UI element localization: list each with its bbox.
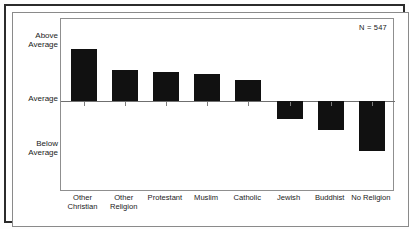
bar-catholic xyxy=(235,80,261,101)
plot-area: N = 547 xyxy=(60,18,394,191)
x-axis-label-no-religion: No Religion xyxy=(345,193,397,202)
y-axis-labels: Above Average Average Below Average xyxy=(8,0,58,229)
sample-size-annotation: N = 547 xyxy=(359,23,387,32)
x-tick-1 xyxy=(84,102,85,106)
bars-layer xyxy=(61,19,395,192)
y-tick-label-below-average-line1: Below xyxy=(36,139,58,148)
x-tick-2 xyxy=(125,102,126,106)
bar-no-religion xyxy=(359,101,385,151)
y-tick-label-below-average-line2: Average xyxy=(28,148,58,157)
y-tick-label-above-average: Above Average xyxy=(28,31,58,50)
x-axis-labels: OtherChristianOtherReligionProtestantMus… xyxy=(60,193,394,221)
y-tick-label-below-average: Below Average xyxy=(28,139,58,158)
x-tick-4 xyxy=(207,102,208,106)
x-tick-3 xyxy=(166,102,167,106)
x-tick-8 xyxy=(372,102,373,106)
x-axis-label-line: Religion xyxy=(98,202,150,211)
chart-figure: Above Average Average Below Average N = … xyxy=(0,0,409,229)
x-axis-label-line: No Religion xyxy=(345,193,397,202)
bar-other-christian xyxy=(71,49,97,101)
y-tick-label-average: Average xyxy=(28,94,58,104)
x-tick-5 xyxy=(248,102,249,106)
bar-protestant xyxy=(153,72,179,101)
y-tick-label-above-average-line1: Above xyxy=(35,31,58,40)
y-tick-label-above-average-line2: Average xyxy=(28,40,58,49)
bar-other-religion xyxy=(112,70,138,101)
bar-muslim xyxy=(194,74,220,101)
x-tick-7 xyxy=(331,102,332,106)
x-tick-6 xyxy=(290,102,291,106)
